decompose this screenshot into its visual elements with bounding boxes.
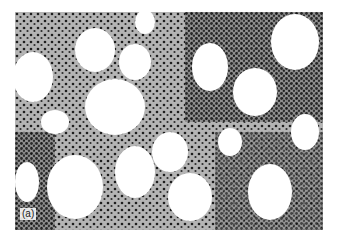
- panel-label: (a): [20, 208, 36, 220]
- micrograph-image: [15, 12, 323, 230]
